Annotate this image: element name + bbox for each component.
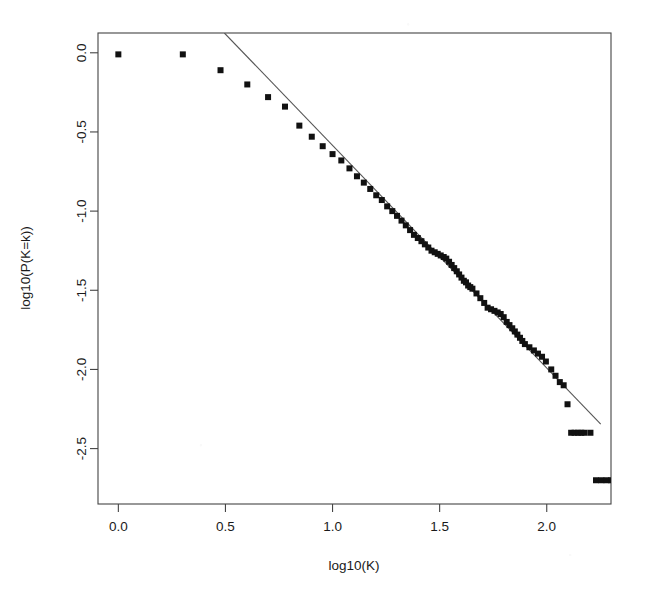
y-tick-label: -2.5 bbox=[75, 437, 90, 460]
y-tick-label: -0.5 bbox=[75, 120, 90, 143]
x-tick-label: 0.5 bbox=[216, 519, 235, 534]
x-tick-label: 2.0 bbox=[537, 519, 556, 534]
x-tick-label: 1.0 bbox=[323, 519, 342, 534]
y-axis-ticks bbox=[90, 53, 98, 449]
y-tick-label: -2.0 bbox=[75, 358, 90, 381]
x-tick-label: 1.5 bbox=[430, 519, 449, 534]
y-axis-title: log10(P(K=k)) bbox=[18, 226, 33, 310]
data-point bbox=[373, 192, 379, 198]
data-point bbox=[548, 366, 554, 372]
data-point bbox=[565, 401, 571, 407]
data-point bbox=[296, 123, 302, 129]
y-axis-tick-labels: 0.0-0.5-1.0-1.5-2.0-2.5 bbox=[75, 43, 90, 460]
data-point bbox=[379, 197, 385, 203]
data-point bbox=[581, 430, 587, 436]
data-point bbox=[553, 373, 559, 379]
data-point bbox=[180, 51, 186, 57]
x-tick-label: 0.0 bbox=[109, 519, 128, 534]
data-point bbox=[598, 477, 604, 483]
data-point bbox=[361, 180, 367, 186]
data-point bbox=[309, 134, 315, 140]
data-point bbox=[367, 186, 373, 192]
data-point bbox=[218, 67, 224, 73]
y-tick-label: -1.0 bbox=[75, 199, 90, 222]
data-point bbox=[330, 151, 336, 157]
y-tick-label: -1.5 bbox=[75, 279, 90, 302]
data-point bbox=[543, 359, 549, 365]
plot-frame bbox=[98, 33, 611, 504]
data-point bbox=[115, 51, 121, 57]
plot-area: 0.00.51.01.52.0 0.0-0.5-1.0-1.5-2.0-2.5 … bbox=[0, 0, 648, 610]
data-point bbox=[282, 104, 288, 110]
data-point bbox=[354, 173, 360, 179]
x-axis-title: log10(K) bbox=[328, 558, 379, 573]
data-point bbox=[587, 430, 593, 436]
data-point bbox=[265, 94, 271, 100]
data-point bbox=[244, 81, 250, 87]
data-point bbox=[320, 143, 326, 149]
data-point bbox=[593, 477, 599, 483]
data-point-series bbox=[115, 51, 614, 483]
figure-container: 0.00.51.01.52.0 0.0-0.5-1.0-1.5-2.0-2.5 … bbox=[0, 0, 648, 610]
x-axis-tick-labels: 0.00.51.01.52.0 bbox=[109, 519, 556, 534]
x-axis-ticks bbox=[118, 504, 546, 512]
data-point bbox=[346, 165, 352, 171]
data-point bbox=[338, 157, 344, 163]
data-point bbox=[561, 382, 567, 388]
data-point bbox=[384, 203, 390, 209]
y-tick-label: 0.0 bbox=[75, 43, 90, 62]
